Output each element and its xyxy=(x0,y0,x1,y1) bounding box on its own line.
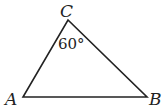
angle-label-c: 60° xyxy=(58,35,85,53)
triangle-diagram: C A B 60° xyxy=(0,0,165,109)
vertex-label-c: C xyxy=(60,1,73,21)
triangle-abc xyxy=(23,20,147,97)
vertex-label-a: A xyxy=(3,89,17,109)
vertex-label-b: B xyxy=(148,89,162,109)
